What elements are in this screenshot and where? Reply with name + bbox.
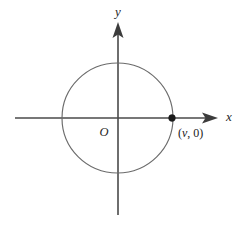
figure-canvas: y x O (v, 0) bbox=[0, 0, 244, 229]
origin-label: O bbox=[99, 125, 108, 139]
point-label-rest: , 0) bbox=[187, 126, 203, 140]
y-axis-label: y bbox=[113, 4, 121, 19]
x-axis-label: x bbox=[225, 109, 232, 124]
coordinate-plane-diagram: y x O (v, 0) bbox=[0, 0, 244, 229]
point-label-v-0: (v, 0) bbox=[178, 126, 203, 140]
point-marker-v-0 bbox=[169, 115, 176, 122]
